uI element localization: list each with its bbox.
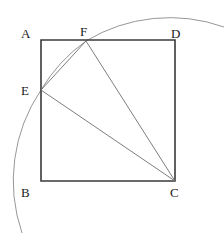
vertex-label-D: D bbox=[171, 27, 180, 40]
figure-canvas bbox=[0, 0, 224, 243]
segment-EC bbox=[41, 90, 175, 181]
vertex-label-E: E bbox=[21, 84, 29, 97]
geometry-figure: A F D E B C bbox=[0, 0, 224, 243]
square-ABDC bbox=[41, 40, 175, 181]
vertex-label-C: C bbox=[170, 186, 179, 199]
segment-FC bbox=[86, 41, 175, 181]
arc-centered-at-C bbox=[13, 18, 224, 233]
vertex-label-B: B bbox=[21, 186, 30, 199]
segment-EF bbox=[41, 41, 86, 90]
vertex-label-A: A bbox=[21, 27, 30, 40]
vertex-label-F: F bbox=[80, 25, 87, 38]
